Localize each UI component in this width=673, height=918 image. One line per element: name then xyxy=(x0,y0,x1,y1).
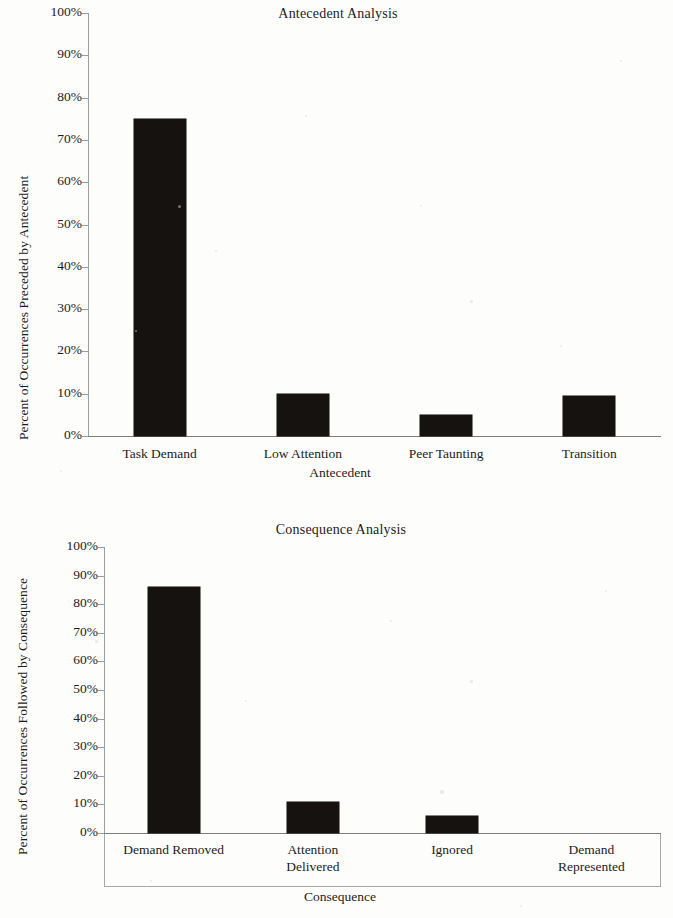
bar xyxy=(420,415,472,436)
y-axis-tick xyxy=(82,182,88,183)
consequence-analysis-chart: Consequence Analysis Percent of Occurren… xyxy=(0,490,673,918)
x-axis-tick-label-line: Peer Taunting xyxy=(375,445,518,462)
x-axis-tick-label: Transition xyxy=(518,445,661,462)
x-axis-tick-label-line: Represented xyxy=(522,858,661,875)
y-axis-tick xyxy=(82,309,88,310)
y-axis-tick xyxy=(98,747,104,748)
y-axis-tick-label: 100% xyxy=(51,4,83,20)
y-axis-tick xyxy=(98,661,104,662)
x-axis-line xyxy=(88,436,661,437)
bar xyxy=(426,816,478,833)
bar xyxy=(563,396,615,436)
plot-area xyxy=(104,547,661,834)
y-axis-tick-label: 60% xyxy=(57,173,82,189)
y-axis-tick-label: 10% xyxy=(57,385,82,401)
y-axis-line xyxy=(104,547,105,834)
y-axis-tick xyxy=(98,776,104,777)
y-axis-tick xyxy=(82,98,88,99)
y-axis-tick-label: 80% xyxy=(57,89,82,105)
y-axis-tick xyxy=(98,804,104,805)
y-axis-line xyxy=(88,13,89,437)
figure-page: Antecedent Analysis Percent of Occurrenc… xyxy=(0,0,673,918)
y-axis-tick-label: 30% xyxy=(57,300,82,316)
x-axis-tick-label: Task Demand xyxy=(88,445,231,462)
y-axis-tick-label: 20% xyxy=(73,767,98,783)
x-axis-tick-label: AttentionDelivered xyxy=(243,841,382,875)
y-axis-tick xyxy=(98,547,104,548)
x-axis-tick-label-line: Ignored xyxy=(383,841,522,858)
y-axis-tick xyxy=(98,604,104,605)
y-axis-tick xyxy=(82,55,88,56)
x-axis-tick-label: Ignored xyxy=(383,841,522,858)
x-axis-tick-label-line: Low Attention xyxy=(231,445,374,462)
y-axis-tick-label: 80% xyxy=(73,595,98,611)
y-axis-tick-label: 40% xyxy=(57,258,82,274)
x-axis-label: Consequence xyxy=(250,889,430,905)
y-axis-tick xyxy=(98,719,104,720)
y-axis-tick-label: 50% xyxy=(73,681,98,697)
y-axis-tick xyxy=(82,394,88,395)
bar xyxy=(287,802,339,833)
y-axis-tick-label: 100% xyxy=(67,538,99,554)
y-axis-tick-label: 70% xyxy=(57,131,82,147)
y-axis-tick-label: 30% xyxy=(73,738,98,754)
x-axis-tick-label-line: Delivered xyxy=(243,858,382,875)
y-axis-label: Percent of Occurrences Followed by Conse… xyxy=(15,578,31,855)
x-axis-tick-label-line: Demand Removed xyxy=(104,841,243,858)
y-axis-tick-label: 50% xyxy=(57,216,82,232)
y-axis-tick xyxy=(82,351,88,352)
x-axis-tick-label-line: Attention xyxy=(243,841,382,858)
y-axis-label: Percent of Occurrences Preceded by Antec… xyxy=(16,176,32,440)
plot-area xyxy=(88,13,661,437)
x-axis-tick-label: DemandRepresented xyxy=(522,841,661,875)
antecedent-analysis-chart: Antecedent Analysis Percent of Occurrenc… xyxy=(0,0,673,488)
chart-title: Consequence Analysis xyxy=(196,522,486,538)
y-axis-tick xyxy=(82,140,88,141)
x-axis-tick-label-line: Transition xyxy=(518,445,661,462)
y-axis-tick-label: 60% xyxy=(73,652,98,668)
y-axis-tick xyxy=(82,225,88,226)
y-axis-tick-label: 40% xyxy=(73,710,98,726)
bar xyxy=(148,587,200,833)
y-axis-tick-label: 10% xyxy=(73,795,98,811)
x-axis-tick-label: Demand Removed xyxy=(104,841,243,858)
bar xyxy=(277,394,329,436)
x-axis-tick-label: Low Attention xyxy=(231,445,374,462)
y-axis-tick-label: 70% xyxy=(73,624,98,640)
y-axis-tick xyxy=(82,436,88,437)
x-axis-tick-label-line: Task Demand xyxy=(88,445,231,462)
y-axis-tick xyxy=(82,13,88,14)
y-axis-tick-label: 20% xyxy=(57,342,82,358)
y-axis-tick xyxy=(82,267,88,268)
y-axis-tick-label: 0% xyxy=(64,427,82,443)
x-axis-label: Antecedent xyxy=(250,465,430,481)
y-axis-tick xyxy=(98,576,104,577)
y-axis-tick xyxy=(98,633,104,634)
y-axis-tick xyxy=(98,690,104,691)
x-axis-tick-label-line: Demand xyxy=(522,841,661,858)
x-axis-tick-label: Peer Taunting xyxy=(375,445,518,462)
y-axis-tick-label: 0% xyxy=(80,824,98,840)
y-axis-tick-label: 90% xyxy=(57,46,82,62)
bar xyxy=(134,119,186,436)
y-axis-tick-label: 90% xyxy=(73,567,98,583)
